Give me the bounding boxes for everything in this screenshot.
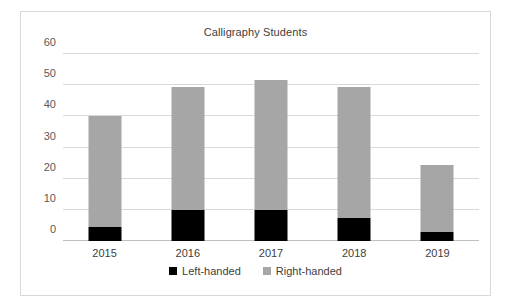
chart-legend: Left-handedRight-handed (21, 265, 490, 277)
legend-item[interactable]: Right-handed (263, 265, 342, 277)
x-axis-tick-label: 2017 (259, 247, 283, 259)
plot-area: 0102030405060 20152016201720182019 (63, 54, 479, 241)
bar-segment[interactable] (88, 116, 121, 227)
bar-segment[interactable] (255, 80, 288, 211)
x-axis-tick-label: 2015 (92, 247, 116, 259)
y-axis-tick-label: 60 (44, 36, 56, 48)
chart-title: Calligraphy Students (21, 26, 490, 38)
bar-segment[interactable] (338, 218, 371, 241)
bar-segment[interactable] (338, 87, 371, 218)
y-axis-tick-label: 20 (44, 161, 56, 173)
chart-container: Calligraphy Students 0102030405060 20152… (20, 11, 491, 296)
bar-segment[interactable] (171, 87, 204, 210)
y-axis-tick-label: 30 (44, 130, 56, 142)
bar-segment[interactable] (421, 232, 454, 241)
y-axis-tick-label: 40 (44, 98, 56, 110)
bar-segment[interactable] (421, 165, 454, 232)
y-axis-tick-label: 10 (44, 192, 56, 204)
x-axis-tick-label: 2018 (342, 247, 366, 259)
y-axis-tick-label: 0 (50, 223, 56, 235)
bar-segment[interactable] (88, 227, 121, 241)
legend-label: Right-handed (276, 265, 342, 277)
gridline (63, 53, 479, 54)
legend-item[interactable]: Left-handed (169, 265, 241, 277)
bar-segment[interactable] (255, 210, 288, 241)
x-axis-tick-label: 2016 (176, 247, 200, 259)
legend-label: Left-handed (182, 265, 241, 277)
bar-segment[interactable] (171, 210, 204, 241)
legend-swatch-icon (169, 267, 177, 275)
x-axis-tick-label: 2019 (425, 247, 449, 259)
legend-swatch-icon (263, 267, 271, 275)
y-axis-tick-label: 50 (44, 67, 56, 79)
